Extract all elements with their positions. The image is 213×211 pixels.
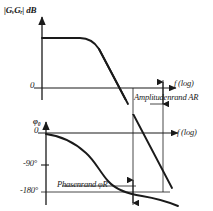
magnitude-curve-tail xyxy=(99,49,128,104)
phase-margin-label: Phasenrand φR xyxy=(57,180,108,189)
amplitude-margin-label: Amplitudenrand AR xyxy=(134,93,198,102)
gain-axis-label: |GᵥGᵣ| dB xyxy=(4,6,36,15)
bode-diagram-figure: |GᵥGᵣ| dB 0 f (log) Amplitudenrand AR φ₀… xyxy=(0,0,213,211)
phase-curve xyxy=(46,134,178,206)
phase-minus90-tick-label: -90° xyxy=(23,159,37,168)
gain-zero-tick-label: 0 xyxy=(30,81,34,90)
phase-x-axis-label: f (log) xyxy=(177,128,197,137)
gain-x-axis-label: f (log) xyxy=(174,79,194,88)
phase-zero-tick-label: 0 xyxy=(34,126,38,135)
phase-minus180-tick-label: -180° xyxy=(20,186,38,195)
